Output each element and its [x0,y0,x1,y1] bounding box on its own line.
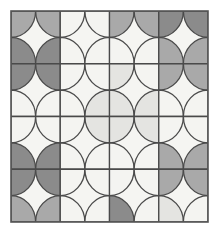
figure-root [0,0,220,233]
circle-arc-tiling-figure [0,0,220,233]
